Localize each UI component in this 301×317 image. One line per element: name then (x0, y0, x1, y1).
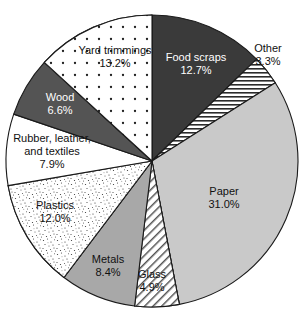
slice-label: Metals8.4% (92, 252, 125, 277)
slice-label: Paper31.0% (208, 184, 239, 209)
slice-name: Metals (92, 252, 125, 264)
slice-value: 7.9% (39, 158, 64, 170)
slice-value: 13.2% (99, 56, 130, 68)
slice-value: 8.4% (95, 265, 120, 277)
slice-name: and textiles (24, 145, 80, 157)
slice-label: Glass4.9% (138, 267, 167, 292)
pie-chart-svg: Food scraps12.7%Other3.3%Paper31.0%Glass… (0, 0, 301, 317)
slice-value: 31.0% (208, 197, 239, 209)
slice-name: Paper (209, 184, 239, 196)
slice-name: Other (254, 41, 282, 53)
pie-chart: Food scraps12.7%Other3.3%Paper31.0%Glass… (0, 0, 301, 317)
slice-name: Food scraps (166, 50, 227, 62)
slice-label: Plastics12.0% (36, 198, 74, 223)
slice-value: 12.7% (180, 63, 211, 75)
slice-label: Other3.3% (254, 41, 282, 66)
slice-value: 3.3% (255, 54, 280, 66)
slice-name: Glass (138, 267, 167, 279)
slice-name: Wood (46, 90, 75, 102)
slice-name: Plastics (36, 198, 74, 210)
slice-value: 12.0% (39, 211, 70, 223)
slice-name: Yard trimmings (78, 43, 152, 55)
slice-value: 6.6% (47, 103, 72, 115)
slice-name: Rubber, leather, (13, 132, 91, 144)
slice-label: Wood6.6% (46, 90, 75, 115)
slice-value: 4.9% (139, 280, 164, 292)
